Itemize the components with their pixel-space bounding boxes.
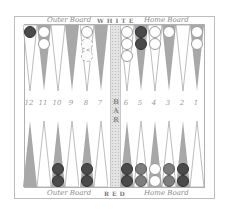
bottom-home-board-label: Home Board (144, 189, 189, 197)
top-outer-board-label: Outer Board (47, 16, 91, 24)
dark-checker[interactable] (81, 175, 93, 187)
point-number-7: 7 (93, 99, 107, 107)
point-outline (94, 121, 108, 187)
point-outline (65, 121, 79, 187)
white-checker[interactable] (81, 26, 93, 38)
dark-checker[interactable] (177, 175, 189, 187)
dark-checker[interactable] (81, 163, 93, 175)
point-number-1: 1 (189, 99, 203, 107)
white-checker[interactable] (149, 163, 161, 175)
point-number-10: 10 (50, 99, 64, 107)
top-home-board-label: Home Board (144, 16, 189, 24)
white-checker[interactable] (163, 26, 175, 38)
point-number-11: 11 (36, 99, 50, 107)
point-number-12: 12 (22, 99, 36, 107)
point-number-6: 6 (119, 99, 133, 107)
white-checker[interactable] (121, 38, 133, 50)
bottom-point-12[interactable] (23, 121, 37, 187)
white-checker[interactable] (149, 38, 161, 50)
point-number-2: 2 (175, 99, 189, 107)
white-checker[interactable] (38, 26, 50, 38)
medium-checker[interactable] (163, 175, 175, 187)
medium-checker[interactable] (135, 175, 147, 187)
dark-checker[interactable] (135, 38, 147, 50)
white-checker[interactable] (149, 26, 161, 38)
top-white-label: WHITE (97, 17, 136, 24)
bottom-outer-board-label: Outer Board (47, 189, 91, 197)
dark-checker[interactable] (24, 26, 36, 38)
white-checker[interactable] (121, 26, 133, 38)
point-outline (176, 25, 190, 91)
medium-checker[interactable] (163, 163, 175, 175)
white-checker[interactable] (121, 50, 133, 62)
dark-checker[interactable] (121, 163, 133, 175)
white-checker[interactable] (38, 38, 50, 50)
point-number-8: 8 (79, 99, 93, 107)
point-number-3: 3 (161, 99, 175, 107)
bottom-red-label: RED (104, 190, 128, 197)
dark-checker[interactable] (135, 26, 147, 38)
point-outline (51, 25, 65, 91)
dark-checker[interactable] (52, 163, 64, 175)
white-checker[interactable] (149, 175, 161, 187)
faded-checker[interactable] (81, 50, 93, 62)
white-checker[interactable] (191, 38, 203, 50)
point-number-5: 5 (133, 99, 147, 107)
dark-checker[interactable] (177, 163, 189, 175)
point-outline (190, 121, 204, 187)
faded-checker[interactable] (81, 38, 93, 50)
dark-checker[interactable] (121, 175, 133, 187)
point-number-4: 4 (147, 99, 161, 107)
top-point-16[interactable] (65, 25, 79, 91)
white-checker[interactable] (191, 26, 203, 38)
point-outline (37, 121, 51, 187)
medium-checker[interactable] (135, 163, 147, 175)
top-point-18[interactable] (94, 25, 108, 91)
dark-checker[interactable] (52, 175, 64, 187)
point-number-9: 9 (64, 99, 78, 107)
